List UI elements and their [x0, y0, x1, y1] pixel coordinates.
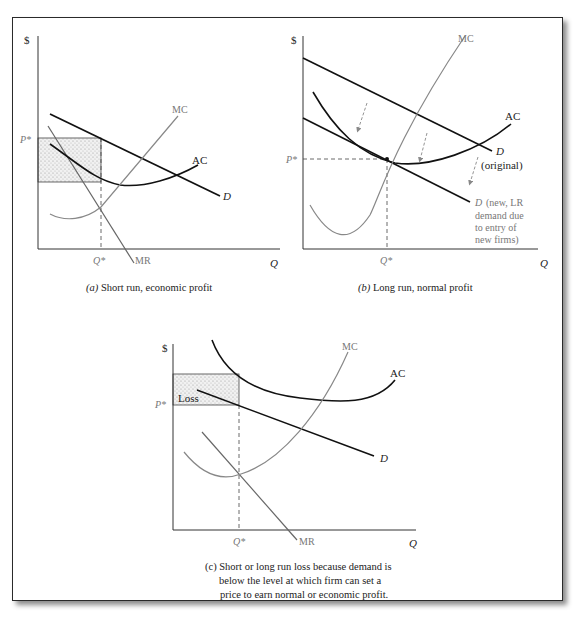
- demand-original-curve: [303, 58, 492, 151]
- caption-b: (b) Long run, normal profit: [358, 282, 473, 294]
- mc-curve: [310, 36, 465, 235]
- quantity-label: Q*: [380, 255, 392, 266]
- demand-label: D: [222, 190, 231, 202]
- quantity-label: Q*: [233, 536, 245, 547]
- ac-curve: [212, 340, 395, 401]
- ac-label: AC: [505, 110, 520, 122]
- caption-c-line-2: below the level at which firm can set a: [219, 575, 381, 586]
- mr-label: MR: [135, 255, 151, 266]
- caption-a: (a) Short run, economic profit: [86, 282, 212, 294]
- demand-new-note-2: demand due: [475, 210, 524, 221]
- quantity-label: Q*: [93, 255, 105, 266]
- y-axis-label: $: [24, 34, 30, 46]
- x-axis-label: Q: [540, 257, 548, 269]
- demand-original-note: (original): [481, 159, 523, 172]
- mc-label: MC: [458, 33, 474, 44]
- demand-new-note-4: new firms): [475, 234, 519, 246]
- equilibrium-point: [385, 157, 389, 161]
- demand-new-note-1: (new, LR: [486, 197, 523, 209]
- shift-arrow-icon: [358, 103, 367, 130]
- panel-b-chart: $ P* MC AC D (original) D (new, LR deman…: [285, 33, 548, 294]
- price-label: P*: [19, 134, 31, 145]
- y-axis-label: $: [162, 342, 168, 354]
- mc-curve: [184, 352, 348, 477]
- ac-label: AC: [390, 367, 405, 379]
- figure-canvas: $ P* MC AC D Q* MR Q (a) Short run, econ…: [0, 0, 578, 627]
- price-label: P*: [154, 399, 166, 410]
- x-axis-label: Q: [409, 537, 417, 549]
- demand-new-note-3: to entry of: [475, 222, 517, 233]
- demand-label: D: [379, 452, 388, 464]
- loss-label: Loss: [178, 392, 199, 404]
- mc-label: MC: [342, 341, 358, 352]
- mr-label: MR: [299, 536, 315, 547]
- shift-arrow-icon: [420, 133, 427, 160]
- ac-curve: [313, 92, 511, 164]
- panel-a-chart: $ P* MC AC D Q* MR Q (a) Short run, econ…: [19, 34, 280, 294]
- panel-c-chart: $ P* Loss MC AC D Q* MR Q (c) Short or l…: [154, 340, 417, 600]
- caption-c-line-1: (c) Short or long run loss because deman…: [205, 561, 392, 573]
- ac-label: AC: [192, 154, 207, 166]
- y-axis-label: $: [291, 34, 297, 46]
- x-axis-label: Q: [270, 257, 278, 269]
- demand-new-label: D: [474, 197, 483, 208]
- shift-arrow-icon: [470, 157, 478, 183]
- caption-c-line-3: price to earn normal or economic profit.: [220, 589, 388, 600]
- demand-original-label: D: [495, 145, 504, 157]
- mc-label: MC: [172, 104, 188, 115]
- price-label: P*: [285, 154, 297, 165]
